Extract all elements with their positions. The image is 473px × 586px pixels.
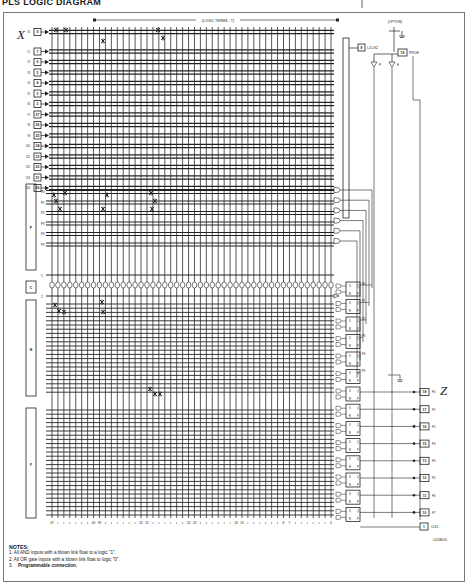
input-buffer-icon [45, 60, 49, 64]
complement-gate [168, 282, 173, 288]
input-buffer-icon [45, 91, 49, 95]
and-gate-icon [336, 423, 341, 427]
x-label: X [17, 27, 25, 43]
complement-gate [210, 282, 215, 288]
term-axis-dot [277, 523, 278, 524]
term-axis-dot [301, 523, 302, 524]
clk2-pin-number: 8 [361, 46, 363, 50]
output-name: F0 [432, 390, 436, 394]
ff-s: S [349, 284, 351, 288]
block-f-label: F [30, 463, 32, 467]
term-axis-dot [224, 523, 225, 524]
ff-p: P [357, 327, 359, 331]
output-pin-number: 18 [423, 390, 427, 394]
ff-q: Q [357, 284, 359, 288]
output-pin-number: 13 [423, 459, 427, 463]
ff-s: S [349, 509, 351, 513]
or-gate-icon [334, 198, 340, 203]
term-axis-dot [158, 523, 159, 524]
complement-gate [216, 282, 221, 288]
term-axis-label: 16 [234, 521, 238, 525]
and-gate-icon [336, 498, 341, 502]
complement-gate [234, 282, 239, 288]
ff-q: Q [357, 406, 359, 410]
input-pin-number: 27 [36, 113, 40, 117]
input-name: I1 [27, 50, 30, 54]
input-buffer-icon [45, 30, 49, 34]
output-name: F7 [432, 511, 436, 515]
logic-diagram: (LOGIC TERMS - T)9I07I16I25I34I43I52I627… [0, 0, 473, 586]
complement-gate [257, 282, 262, 288]
complement-gate [157, 282, 162, 288]
ff-q: Q [357, 371, 359, 375]
and-gate-icon [336, 447, 341, 451]
ff-p: P [357, 344, 359, 348]
and-gate-icon [336, 378, 341, 382]
or-gate-icon [334, 239, 340, 244]
term-axis-dot [75, 523, 76, 524]
ff-q: Q [357, 457, 359, 461]
e-gate-label: E [397, 63, 399, 67]
input-name: I3 [27, 71, 30, 75]
ff-p: P [357, 500, 359, 504]
block-n-label: N [30, 348, 33, 352]
term-axis-dot [259, 523, 260, 524]
state-row-label: P3 [41, 222, 45, 226]
input-pin-number: 3 [37, 92, 39, 96]
ff-q: Q [357, 336, 359, 340]
ff-q: Q [357, 354, 359, 358]
input-name: I9 [27, 134, 30, 138]
complement-gate [299, 282, 304, 288]
input-buffer-icon [45, 70, 49, 74]
complement-gate [293, 282, 298, 288]
input-buffer-icon [45, 49, 49, 53]
and-gate-icon [336, 429, 341, 433]
ff-r: R [349, 362, 351, 366]
and-gate-icon [336, 492, 341, 496]
ff-s: S [349, 354, 351, 358]
ff-q: Q [357, 423, 359, 427]
complement-gate [162, 282, 167, 288]
state-row-label: P0 [41, 190, 45, 194]
term-axis-dot [69, 523, 70, 524]
ff-q: Q [357, 319, 359, 323]
ff-r: R [349, 414, 351, 418]
complement-gate [186, 282, 191, 288]
input-name: I2 [27, 60, 30, 64]
input-pin-number: 2 [37, 102, 39, 106]
term-axis-dot [206, 523, 207, 524]
ff-q: Q [357, 475, 359, 479]
output-name: F2 [432, 425, 436, 429]
term-axis-dot [313, 523, 314, 524]
input-pin-number: 21 [36, 176, 40, 180]
ff-p: P [357, 483, 359, 487]
term-axis-dot [87, 523, 88, 524]
complement-row-label: C [41, 274, 44, 278]
or-gate-icon [334, 208, 340, 213]
and-gate-icon [336, 464, 341, 468]
and-gate-icon [336, 475, 341, 479]
ff-r: R [349, 344, 351, 348]
ff-p: P [357, 414, 359, 418]
or-gate-icon [334, 218, 340, 223]
input-pin-number: 25 [36, 134, 40, 138]
term-axis-label: 31 [145, 521, 149, 525]
logic-terms-right-marker [336, 19, 339, 22]
complement-gate [323, 282, 328, 288]
ff-p: P [357, 397, 359, 401]
ff-r: R [349, 465, 351, 469]
ff-q: Q [357, 509, 359, 513]
ff-q: Q [357, 301, 359, 305]
complement-gate [97, 282, 102, 288]
p-gate-icon [371, 62, 377, 67]
ff-s: S [349, 336, 351, 340]
ff-p: P [357, 309, 359, 313]
and-gate-icon [336, 412, 341, 416]
complement-gate [198, 282, 203, 288]
output-node [413, 477, 416, 480]
term-axis-dot [247, 523, 248, 524]
and-gate-icon [336, 354, 341, 358]
term-axis-dot [218, 523, 219, 524]
and-gate-icon [336, 343, 341, 347]
output-name: F3 [432, 442, 436, 446]
